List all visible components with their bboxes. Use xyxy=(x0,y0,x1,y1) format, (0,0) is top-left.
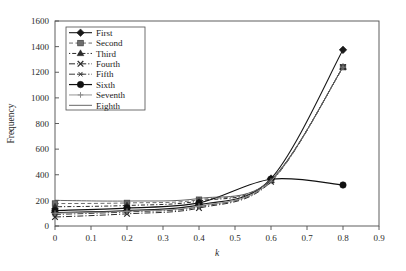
legend-label: Eighth xyxy=(96,101,120,111)
y-tick-label: 200 xyxy=(36,196,50,206)
legend-label: Seventh xyxy=(96,90,125,100)
x-tick-label: 0.4 xyxy=(193,233,205,243)
legend-label: Fourth xyxy=(96,59,121,69)
x-tick-label: 0.8 xyxy=(337,233,349,243)
chart-figure: 00.10.20.30.40.50.60.70.80.9020040060080… xyxy=(0,0,406,271)
x-tick-label: 0.1 xyxy=(85,233,96,243)
y-tick-label: 1000 xyxy=(31,93,50,103)
y-tick-label: 600 xyxy=(36,144,50,154)
y-tick-label: 0 xyxy=(45,221,50,231)
marker-square xyxy=(78,40,84,46)
legend-label: Third xyxy=(96,49,116,59)
marker-circle xyxy=(340,182,346,188)
x-tick-label: 0.9 xyxy=(373,233,385,243)
y-tick-label: 400 xyxy=(36,170,50,180)
frequency-vs-k-line-chart: 00.10.20.30.40.50.60.70.80.9020040060080… xyxy=(0,0,406,271)
legend-label: Fifth xyxy=(96,69,114,79)
y-axis-title: Frequency xyxy=(6,103,16,143)
x-tick-label: 0.7 xyxy=(301,233,313,243)
legend-label: First xyxy=(96,28,113,38)
legend-label: Sixth xyxy=(96,80,116,90)
marker-circle xyxy=(77,81,83,87)
marker-diamond xyxy=(339,46,347,54)
y-tick-label: 1400 xyxy=(31,42,50,52)
x-tick-label: 0.6 xyxy=(265,233,277,243)
y-tick-label: 1600 xyxy=(31,16,50,26)
x-axis-title: k xyxy=(215,248,220,258)
legend-label: Second xyxy=(96,38,123,48)
x-tick-label: 0.2 xyxy=(121,233,132,243)
x-tick-label: 0 xyxy=(53,233,58,243)
y-tick-label: 1200 xyxy=(31,67,50,77)
y-tick-label: 800 xyxy=(36,119,50,129)
x-tick-label: 0.3 xyxy=(157,233,169,243)
x-tick-label: 0.5 xyxy=(229,233,241,243)
